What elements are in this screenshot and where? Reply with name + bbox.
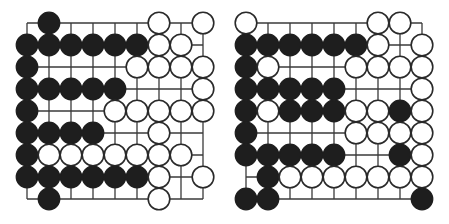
white-stone: [411, 100, 433, 122]
white-stone: [38, 144, 60, 166]
white-stone: [367, 56, 389, 78]
black-stone: [235, 100, 257, 122]
black-stone: [235, 78, 257, 100]
black-stone: [38, 166, 60, 188]
white-stone: [104, 100, 126, 122]
white-stone: [345, 100, 367, 122]
white-stone: [170, 34, 192, 56]
white-stone: [148, 56, 170, 78]
black-stone: [38, 78, 60, 100]
white-stone: [192, 12, 214, 34]
black-stone: [104, 34, 126, 56]
black-stone: [301, 78, 323, 100]
white-stone: [279, 166, 301, 188]
white-stone: [148, 144, 170, 166]
white-stone: [411, 122, 433, 144]
white-stone: [367, 100, 389, 122]
go-board-left-svg: [0, 0, 230, 224]
black-stone: [301, 100, 323, 122]
black-stone: [235, 144, 257, 166]
black-stone: [323, 144, 345, 166]
white-stone: [148, 122, 170, 144]
black-stone: [323, 34, 345, 56]
black-stone: [60, 166, 82, 188]
white-stone: [367, 166, 389, 188]
white-stone: [192, 100, 214, 122]
black-stone: [345, 34, 367, 56]
black-stone: [82, 34, 104, 56]
black-stone: [323, 100, 345, 122]
white-stone: [411, 166, 433, 188]
black-stone: [411, 188, 433, 210]
white-stone: [301, 166, 323, 188]
black-stone: [235, 122, 257, 144]
black-stone: [16, 34, 38, 56]
black-stone: [235, 56, 257, 78]
white-stone: [345, 122, 367, 144]
black-stone: [16, 166, 38, 188]
black-stone: [257, 166, 279, 188]
white-stone: [192, 78, 214, 100]
white-stone: [389, 56, 411, 78]
white-stone: [367, 12, 389, 34]
white-stone: [367, 34, 389, 56]
black-stone: [235, 188, 257, 210]
white-stone: [257, 56, 279, 78]
black-stone: [38, 12, 60, 34]
black-stone: [301, 144, 323, 166]
black-stone: [126, 34, 148, 56]
black-stone: [235, 34, 257, 56]
white-stone: [323, 166, 345, 188]
white-stone: [60, 144, 82, 166]
black-stone: [389, 144, 411, 166]
black-stone: [82, 78, 104, 100]
white-stone: [389, 166, 411, 188]
white-stone: [126, 56, 148, 78]
black-stone: [60, 78, 82, 100]
white-stone: [82, 144, 104, 166]
black-stone: [38, 188, 60, 210]
white-stone: [148, 188, 170, 210]
white-stone: [367, 122, 389, 144]
black-stone: [257, 144, 279, 166]
go-board-right: [219, 0, 449, 224]
black-stone: [257, 188, 279, 210]
white-stone: [389, 122, 411, 144]
black-stone: [60, 122, 82, 144]
white-stone: [235, 12, 257, 34]
black-stone: [16, 78, 38, 100]
white-stone: [345, 56, 367, 78]
white-stone: [257, 100, 279, 122]
white-stone: [148, 100, 170, 122]
black-stone: [38, 34, 60, 56]
black-stone: [257, 34, 279, 56]
white-stone: [411, 78, 433, 100]
white-stone: [148, 34, 170, 56]
white-stone: [389, 12, 411, 34]
white-stone: [411, 56, 433, 78]
black-stone: [279, 78, 301, 100]
black-stone: [82, 122, 104, 144]
black-stone: [82, 166, 104, 188]
black-stone: [257, 78, 279, 100]
white-stone: [192, 166, 214, 188]
black-stone: [60, 34, 82, 56]
white-stone: [411, 144, 433, 166]
black-stone: [126, 166, 148, 188]
black-stone: [279, 144, 301, 166]
white-stone: [192, 56, 214, 78]
white-stone: [148, 12, 170, 34]
stones: [235, 12, 433, 210]
white-stone: [170, 56, 192, 78]
white-stone: [126, 100, 148, 122]
black-stone: [16, 100, 38, 122]
black-stone: [38, 122, 60, 144]
black-stone: [389, 100, 411, 122]
go-board-left: [0, 0, 230, 224]
black-stone: [104, 78, 126, 100]
black-stone: [16, 56, 38, 78]
black-stone: [323, 78, 345, 100]
white-stone: [170, 100, 192, 122]
black-stone: [279, 100, 301, 122]
black-stone: [104, 166, 126, 188]
